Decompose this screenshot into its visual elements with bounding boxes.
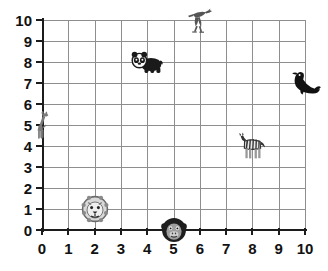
x-tick-0 (41, 228, 43, 235)
x-tick-label-0: 0 (29, 241, 55, 256)
y-tick-label-4: 4 (6, 139, 32, 154)
y-tick-6 (36, 103, 43, 105)
y-tick-label-9: 9 (6, 34, 32, 49)
monkey-icon (157, 215, 191, 245)
x-tick-9 (278, 228, 280, 235)
x-tick-2 (94, 228, 96, 235)
y-tick-1 (36, 208, 43, 210)
x-tick-3 (120, 228, 122, 235)
gridline-horizontal-7 (42, 83, 305, 84)
gridline-horizontal-8 (42, 62, 305, 63)
y-tick-9 (36, 40, 43, 42)
x-tick-label-7: 7 (213, 241, 239, 256)
giraffe-icon (25, 110, 59, 140)
y-tick-label-2: 2 (6, 181, 32, 196)
gridline-horizontal-3 (42, 167, 305, 168)
panda-icon (130, 47, 164, 77)
y-tick-4 (36, 145, 43, 147)
x-tick-7 (225, 228, 227, 235)
coordinate-grid-figure: 012345678910012345678910 (0, 0, 328, 271)
x-tick-10 (304, 228, 306, 235)
gridline-horizontal-2 (42, 188, 305, 189)
x-tick-label-8: 8 (239, 241, 265, 256)
gridline-horizontal-10 (42, 20, 305, 21)
y-tick-label-8: 8 (6, 55, 32, 70)
y-tick-label-10: 10 (6, 13, 32, 28)
y-tick-10 (36, 19, 43, 21)
x-tick-label-3: 3 (108, 241, 134, 256)
zebra-icon (235, 131, 269, 161)
x-tick-label-10: 10 (292, 241, 318, 256)
y-tick-2 (36, 187, 43, 189)
gridline-vertical-10 (305, 20, 306, 230)
y-tick-3 (36, 166, 43, 168)
x-tick-8 (251, 228, 253, 235)
y-tick-label-7: 7 (6, 76, 32, 91)
gridline-horizontal-9 (42, 41, 305, 42)
x-tick-label-1: 1 (55, 241, 81, 256)
x-tick-1 (67, 228, 69, 235)
x-tick-label-2: 2 (82, 241, 108, 256)
y-tick-8 (36, 61, 43, 63)
gridline-horizontal-6 (42, 104, 305, 105)
x-tick-4 (146, 228, 148, 235)
y-tick-label-1: 1 (6, 202, 32, 217)
bird-icon (183, 5, 217, 35)
lion-icon (78, 194, 112, 224)
x-tick-label-6: 6 (187, 241, 213, 256)
x-tick-6 (199, 228, 201, 235)
gridline-horizontal-5 (42, 125, 305, 126)
seal-icon (288, 68, 322, 98)
y-tick-7 (36, 82, 43, 84)
x-tick-label-9: 9 (266, 241, 292, 256)
y-tick-label-0: 0 (6, 223, 32, 238)
y-tick-label-3: 3 (6, 160, 32, 175)
